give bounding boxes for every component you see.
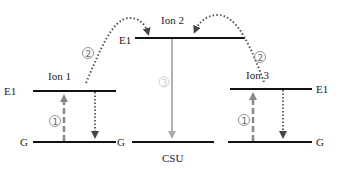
csu-g-label: G <box>117 136 125 148</box>
ion-2-e1-label: E1 <box>119 34 131 46</box>
csu-label: CSU <box>162 152 183 164</box>
ion-1-label: Ion 1 <box>48 70 71 82</box>
csu-group: G CSU <box>117 136 214 164</box>
ion-3-group: Ion 3 E1 G 1 <box>228 69 328 148</box>
ion-3-e1-label: E1 <box>316 83 328 95</box>
energy-diagram: Ion 1 E1 G 1 Ion 2 E1 3 G CSU Ion 3 E1 G… <box>0 0 345 169</box>
step-2-text-left: 2 <box>86 49 92 59</box>
ion-1-group: Ion 1 E1 G 1 <box>4 70 116 148</box>
ion-1-g-label: G <box>20 136 28 148</box>
ion-3-g-label: G <box>316 136 324 148</box>
ion-1-e1-label: E1 <box>4 85 16 97</box>
step-3-text: 3 <box>162 78 168 88</box>
step-1-text-right: 1 <box>242 116 248 126</box>
ion-3-label: Ion 3 <box>246 69 269 81</box>
ion-2-label: Ion 2 <box>161 14 184 26</box>
step-2-text-right: 2 <box>258 53 264 63</box>
ion-2-group: Ion 2 E1 3 <box>119 14 245 136</box>
transfer-arrow-ion1-to-ion2 <box>86 18 148 83</box>
step-1-text-left: 1 <box>53 117 59 127</box>
